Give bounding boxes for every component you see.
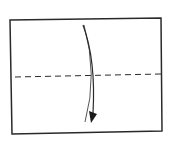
fold-arrow [83, 25, 97, 123]
valley-fold-line [15, 74, 161, 77]
arrow-head-icon [89, 111, 97, 123]
fold-diagram [0, 0, 172, 143]
arrow-stroke-inner [84, 25, 91, 122]
arrow-stroke [83, 25, 94, 113]
